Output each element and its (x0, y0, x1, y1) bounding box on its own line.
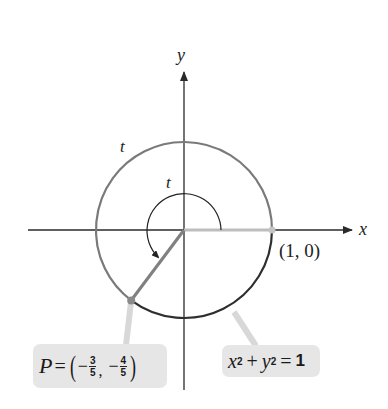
right-paren: ) (130, 351, 136, 381)
point-start-label: (1, 0) (279, 241, 320, 260)
point-P-callout: P = ( − 3 5 , − 4 5 ) (33, 344, 167, 388)
eq-x: x (228, 350, 237, 373)
y-denominator: 5 (121, 367, 127, 378)
y-numerator: 4 (120, 355, 128, 367)
x-denominator: 5 (90, 367, 96, 378)
x-numerator: 3 (89, 355, 97, 367)
radius-to-P (131, 230, 184, 300)
P-equals: = (54, 355, 65, 378)
outer-arc-label-t: t (120, 138, 125, 155)
inner-angle-label-t: t (166, 174, 171, 191)
point-start-marker (269, 227, 276, 234)
equation-callout: x2 + y2 = 1 (222, 345, 320, 377)
y-fraction: 4 5 (120, 355, 128, 378)
P-label: P (39, 353, 52, 379)
coord-separator: , (98, 362, 102, 380)
eq-x-exponent: 2 (237, 356, 243, 367)
x-axis-label: x (359, 220, 367, 238)
eq-y: y (262, 350, 271, 373)
P-callout-leader (126, 302, 131, 345)
x-sign: − (78, 356, 88, 377)
eq-rhs: 1 (295, 351, 304, 371)
y-sign: − (108, 356, 118, 377)
eq-y-exponent: 2 (271, 356, 277, 367)
equation-callout-leader (234, 312, 256, 346)
eq-plus: + (246, 350, 257, 373)
point-P-marker (127, 296, 135, 304)
left-paren: ( (70, 351, 76, 381)
eq-equals: = (280, 350, 291, 373)
x-fraction: 3 5 (89, 355, 97, 378)
y-axis-label: y (177, 46, 185, 64)
